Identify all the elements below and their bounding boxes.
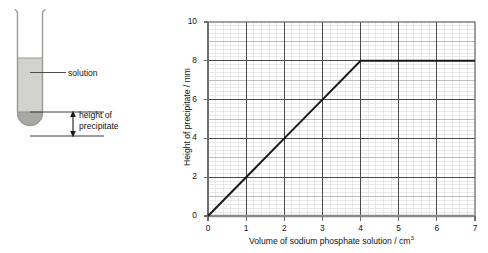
x-tick-label: 5 [391,223,407,233]
x-tick-label: 1 [238,223,254,233]
height-of-precipitate-label-line2: precipitate [79,121,119,131]
y-tick-label: 10 [181,16,197,26]
y-axis-title: Height of precipitate / mm [182,47,192,187]
y-tick-label: 0 [181,210,197,220]
arrow-head-up-icon [70,111,76,118]
tube-lip-right [43,10,46,14]
x-tick-label: 0 [200,223,216,233]
height-of-precipitate-label-line1: height of [79,110,112,120]
test-tube-diagram: solution height ofprecipitate [0,0,180,253]
solution-fill [16,58,44,112]
x-tick-label: 2 [276,223,292,233]
x-axis-title-superscript: 3 [411,234,414,241]
precipitate-fill [16,112,44,142]
x-tick-label: 3 [314,223,330,233]
x-tick-label: 6 [429,223,445,233]
arrow-head-down-icon [70,131,76,138]
solution-label: solution [68,68,98,79]
precipitate-vs-volume-chart: 012345670246810 Height of precipitate / … [165,0,488,253]
tube-lip-left [15,10,18,14]
x-tick-label: 4 [353,223,369,233]
chart-plot-svg [165,0,488,253]
tube-contents [16,58,44,142]
x-axis-title: Volume of sodium phosphate solution / cm… [175,234,488,246]
height-of-precipitate-label: height ofprecipitate [79,110,119,131]
x-axis-title-text: Volume of sodium phosphate solution / cm [249,236,410,246]
x-tick-label: 7 [467,223,483,233]
